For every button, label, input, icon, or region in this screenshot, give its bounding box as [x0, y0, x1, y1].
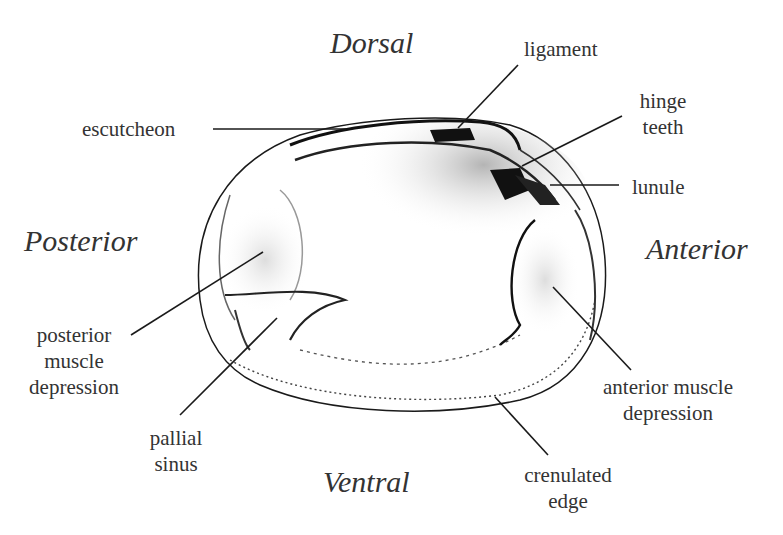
leader-crenulated-edge — [495, 397, 548, 455]
label-lunule: lunule — [632, 174, 685, 200]
label-crenulated-edge-line2: edge — [508, 488, 628, 514]
shell-anatomy-diagram: Dorsal Ventral Posterior Anterior escutc… — [0, 0, 783, 535]
orientation-posterior: Posterior — [24, 224, 137, 258]
label-anterior-muscle-line1: anterior muscle — [582, 374, 754, 400]
label-posterior-muscle-line3: depression — [16, 374, 132, 400]
shell-illustration — [0, 0, 783, 535]
label-posterior-muscle-line1: posterior — [16, 322, 132, 348]
leader-ligament — [458, 65, 518, 128]
label-anterior-muscle-line2: depression — [582, 400, 754, 426]
label-hinge-teeth: hinge teeth — [629, 88, 697, 140]
label-hinge-teeth-line2: teeth — [629, 114, 697, 140]
label-hinge-teeth-line1: hinge — [629, 88, 697, 114]
label-anterior-muscle-depression: anterior muscle depression — [582, 374, 754, 426]
label-posterior-muscle-depression: posterior muscle depression — [16, 322, 132, 400]
orientation-anterior: Anterior — [646, 232, 748, 266]
label-crenulated-edge: crenulated edge — [508, 462, 628, 514]
label-pallial-sinus-line2: sinus — [140, 451, 212, 477]
orientation-ventral: Ventral — [323, 465, 410, 499]
orientation-dorsal: Dorsal — [330, 26, 413, 60]
label-pallial-sinus: pallial sinus — [140, 425, 212, 477]
label-crenulated-edge-line1: crenulated — [508, 462, 628, 488]
label-escutcheon: escutcheon — [82, 116, 175, 142]
label-posterior-muscle-line2: muscle — [16, 348, 132, 374]
label-ligament: ligament — [524, 36, 597, 62]
label-pallial-sinus-line1: pallial — [140, 425, 212, 451]
